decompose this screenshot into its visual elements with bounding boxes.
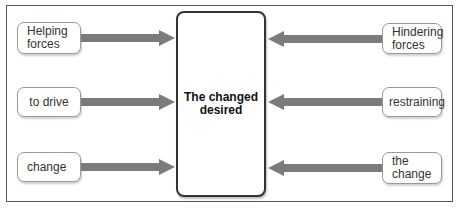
arrow-left-icon: [268, 94, 382, 110]
changed-desired-box: The changed desired: [176, 11, 266, 197]
box-label: restraining: [389, 96, 445, 109]
to-drive-box: to drive: [17, 87, 81, 117]
box-label: the change: [392, 155, 436, 181]
arrow-left-icon: [268, 160, 382, 176]
hindering-forces-box: Hindering forces: [382, 23, 442, 54]
box-label: change: [27, 161, 66, 174]
arrow-right-icon: [81, 30, 175, 46]
restraining-box: restraining: [382, 87, 442, 117]
arrow-right-icon: [81, 94, 175, 110]
arrow-left-icon: [268, 31, 382, 47]
the-change-box: the change: [382, 152, 442, 184]
arrow-right-icon: [81, 159, 175, 175]
helping-forces-box: Helping forces: [17, 22, 81, 54]
box-label: to drive: [29, 96, 68, 109]
change-box: change: [17, 152, 81, 182]
box-label: Hindering forces: [392, 26, 442, 52]
box-label: Helping forces: [27, 25, 77, 51]
center-label: The changed desired: [181, 91, 261, 117]
